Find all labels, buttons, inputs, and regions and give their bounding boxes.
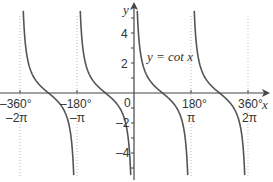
cot-graph: y x 0 y = cot x –360° –180° 180° 360° –2… (0, 0, 273, 182)
y-tick-2: 2 (121, 57, 128, 71)
x-tick-360: 360° (238, 97, 263, 111)
x-tick-180: 180° (182, 97, 207, 111)
x-tick-neg360: –360° (0, 97, 32, 111)
function-label: y = cot x (145, 49, 193, 64)
x-tick-neg2pi: –2π (6, 111, 28, 125)
axes (0, 2, 270, 180)
origin-label: 0 (124, 96, 131, 110)
y-tick-neg2: –2 (116, 116, 130, 130)
x-tick-pi: π (187, 111, 195, 125)
y-tick-neg4: –4 (116, 146, 130, 160)
x-tick-2pi: 2π (242, 111, 257, 125)
y-tick-4: 4 (121, 27, 128, 41)
y-axis-label: y (121, 2, 129, 17)
x-tick-negpi: –π (70, 111, 85, 125)
x-tick-neg180: –180° (60, 97, 92, 111)
